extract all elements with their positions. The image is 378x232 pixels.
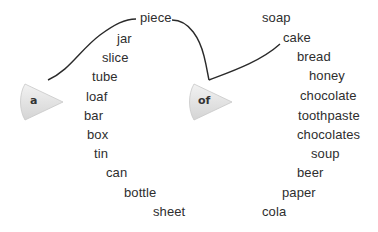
hub-a-badge: a — [17, 82, 65, 122]
word-bar: bar — [84, 108, 103, 124]
word-soap: soap — [262, 10, 291, 26]
word-honey: honey — [309, 68, 345, 84]
word-tin: tin — [94, 146, 108, 162]
word-cola: cola — [262, 204, 286, 220]
word-cake: cake — [283, 30, 311, 46]
connector-piece-to-of — [172, 20, 209, 80]
hub-of-label: of — [198, 94, 210, 107]
hub-of-badge: of — [186, 82, 234, 122]
word-paper: paper — [282, 185, 316, 201]
word-toothpaste: toothpaste — [298, 108, 360, 124]
connector-of-to-cake — [209, 44, 280, 80]
word-jar: jar — [117, 31, 132, 47]
word-chocolates: chocolates — [297, 127, 360, 143]
word-box: box — [87, 127, 108, 143]
word-loaf: loaf — [86, 89, 107, 105]
word-slice: slice — [102, 50, 129, 66]
word-sheet: sheet — [153, 204, 185, 220]
word-soup: soup — [311, 146, 340, 162]
word-piece: piece — [140, 10, 172, 26]
word-tube: tube — [92, 69, 118, 85]
word-bottle: bottle — [124, 185, 156, 201]
word-bread: bread — [297, 49, 331, 65]
word-chocolate: chocolate — [300, 88, 357, 104]
word-beer: beer — [297, 165, 323, 181]
word-can: can — [106, 165, 127, 181]
hub-a-label: a — [30, 94, 37, 107]
